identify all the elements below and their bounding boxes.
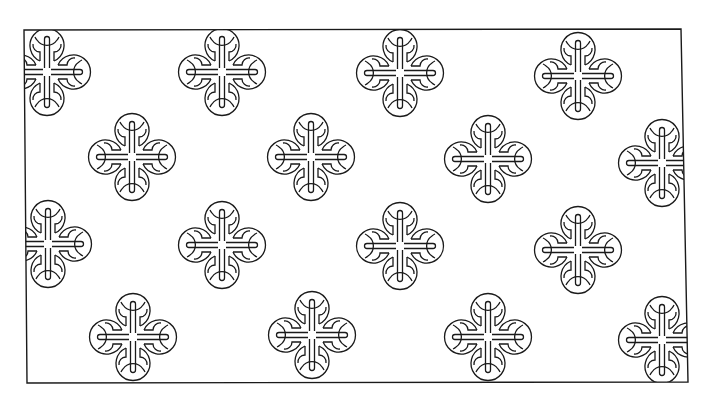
- knot-motif: [268, 114, 355, 201]
- pattern-canvas: [0, 0, 725, 407]
- knot-motif: [619, 120, 706, 207]
- knot-motif: [269, 292, 356, 379]
- knot-motif: [357, 30, 444, 117]
- knot-motif: [535, 33, 622, 120]
- knot-motif: [179, 29, 266, 116]
- ornamental-pattern: [0, 0, 725, 407]
- knot-motif: [90, 294, 177, 381]
- knot-motif: [89, 114, 176, 201]
- knot-motif: [445, 294, 532, 381]
- knot-motif: [179, 202, 266, 289]
- knot-motif: [357, 203, 444, 290]
- knot-motif: [5, 201, 92, 288]
- knot-motif: [619, 297, 706, 384]
- knot-motif: [535, 207, 622, 294]
- frame-border: [24, 29, 688, 383]
- motif-grid: [4, 29, 706, 384]
- knot-motif: [445, 116, 532, 203]
- knot-motif: [4, 29, 91, 116]
